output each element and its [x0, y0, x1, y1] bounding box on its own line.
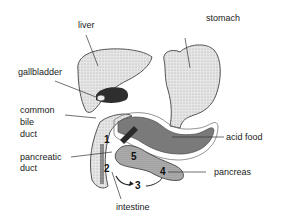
label-common-bile-duct-line3: duct: [20, 129, 37, 139]
liver-shape: [78, 49, 152, 113]
label-common-bile-duct-line2: bile: [20, 117, 34, 127]
marker-1: 1: [104, 135, 110, 145]
label-intestine: intestine: [116, 202, 150, 212]
label-acid-food: acid food: [226, 132, 263, 142]
label-stomach: stomach: [206, 13, 240, 23]
marker-4: 4: [160, 167, 166, 177]
label-pancreatic-duct-line2: duct: [20, 163, 37, 173]
label-gallbladder: gallbladder: [18, 67, 62, 77]
marker-3: 3: [135, 181, 141, 191]
marker-5: 5: [131, 152, 137, 162]
label-common-bile-duct-line1: common: [20, 105, 55, 115]
label-pancreas: pancreas: [214, 167, 251, 177]
digestive-diagram: liver stomach gallbladder common bile du…: [0, 0, 281, 222]
marker-2: 2: [104, 164, 110, 174]
label-liver: liver: [78, 20, 95, 30]
stomach-shape: [164, 45, 221, 128]
label-pancreatic-duct-line1: pancreatic: [20, 152, 62, 162]
